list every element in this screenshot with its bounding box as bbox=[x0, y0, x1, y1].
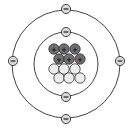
neutron bbox=[75, 73, 85, 83]
minus-icon bbox=[11, 60, 16, 61]
neutron bbox=[64, 73, 74, 83]
minus-icon bbox=[118, 60, 123, 61]
proton-charge: + bbox=[61, 46, 67, 54]
neutron bbox=[54, 73, 64, 83]
proton: + bbox=[49, 44, 59, 54]
electron bbox=[8, 56, 17, 65]
electron bbox=[61, 27, 70, 36]
minus-icon bbox=[64, 96, 69, 97]
electron bbox=[115, 56, 124, 65]
proton-charge: + bbox=[72, 46, 78, 54]
proton-charge: + bbox=[56, 56, 62, 64]
proton-charge: + bbox=[51, 46, 57, 54]
proton: + bbox=[64, 54, 74, 64]
proton-charge: + bbox=[66, 56, 72, 64]
minus-icon bbox=[64, 118, 69, 119]
minus-icon bbox=[64, 8, 69, 9]
minus-icon bbox=[64, 31, 69, 32]
electron bbox=[61, 114, 70, 123]
electron bbox=[61, 4, 70, 13]
proton: + bbox=[54, 54, 64, 64]
proton-charge: + bbox=[77, 56, 83, 64]
proton: + bbox=[59, 44, 69, 54]
proton: + bbox=[70, 44, 80, 54]
electron bbox=[61, 92, 70, 101]
atom-diagram: ++++++ bbox=[0, 0, 136, 128]
proton: + bbox=[75, 54, 85, 64]
